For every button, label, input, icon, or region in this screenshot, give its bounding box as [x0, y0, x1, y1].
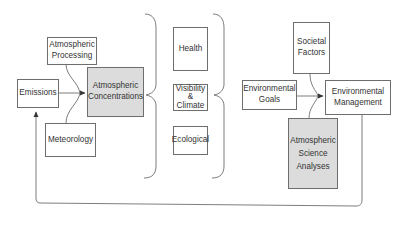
- curve-societal-to-management: [310, 74, 318, 96]
- environmental-management-label: Environmental Management: [332, 87, 384, 108]
- emissions-box: Emissions: [17, 79, 59, 108]
- brace-goals: [212, 14, 224, 178]
- curve-processing-to-concentrations: [66, 64, 80, 93]
- curve-meteorology-to-concentrations: [66, 93, 80, 123]
- atmospheric-processing-label: Atmospheric Processing: [49, 40, 95, 61]
- atmospheric-science-analyses-box: Atmospheric Science Analyses: [288, 118, 338, 189]
- environmental-goals-box: Environmental Goals: [242, 80, 297, 110]
- meteorology-box: Meteorology: [45, 123, 96, 157]
- environmental-management-box: Environmental Management: [325, 80, 391, 115]
- brace-impacts: [144, 14, 156, 178]
- meteorology-label: Meteorology: [48, 135, 93, 146]
- atmospheric-concentrations-box: Atmospheric Concentrations: [87, 67, 144, 117]
- societal-factors-label: Societal Factors: [297, 37, 326, 58]
- visibility-climate-box: Visibility & Climate: [173, 84, 208, 111]
- health-box: Health: [173, 27, 208, 71]
- curve-analyses-to-management: [309, 96, 318, 118]
- atmospheric-concentrations-label: Atmospheric Concentrations: [88, 81, 143, 102]
- societal-factors-box: Societal Factors: [293, 22, 330, 74]
- environmental-goals-label: Environmental Goals: [243, 84, 295, 105]
- ecological-box: Ecological: [173, 126, 208, 155]
- emissions-label: Emissions: [19, 88, 56, 99]
- atmospheric-science-analyses-label: Atmospheric Science Analyses: [290, 134, 336, 173]
- atmospheric-processing-box: Atmospheric Processing: [47, 37, 97, 65]
- visibility-climate-label: Visibility & Climate: [176, 85, 205, 111]
- air-quality-management-diagram: Atmospheric Processing Emissions Atmosph…: [0, 0, 408, 225]
- health-label: Health: [179, 44, 203, 55]
- ecological-label: Ecological: [172, 135, 209, 146]
